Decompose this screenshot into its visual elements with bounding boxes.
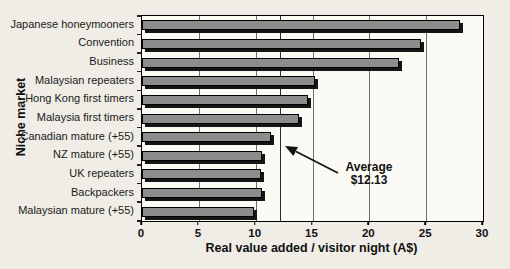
- x-axis-title: Real value added / visitor night (A$): [141, 241, 482, 255]
- category-label: Hong Kong first timers: [0, 90, 134, 109]
- x-tick-label: 10: [248, 227, 261, 239]
- category-label: Backpackers: [0, 183, 134, 202]
- y-tick: [137, 164, 141, 166]
- bar-row: [142, 146, 483, 165]
- bars-layer: [142, 16, 483, 221]
- x-tick-label: 25: [419, 227, 432, 239]
- category-label: UK repeaters: [0, 164, 134, 183]
- average-annotation: Average $12.13: [328, 161, 410, 187]
- bar-row: [142, 202, 483, 221]
- x-tick-label: 15: [305, 227, 318, 239]
- bar: [142, 95, 308, 105]
- x-tick: [311, 221, 313, 225]
- bar: [142, 151, 262, 161]
- y-tick: [137, 90, 141, 92]
- category-axis-labels: Japanese honeymoonersConventionBusinessM…: [0, 15, 134, 220]
- category-label: Malaysia first timers: [0, 108, 134, 127]
- annotation-value: $12.13: [328, 174, 410, 187]
- x-tick: [197, 221, 199, 225]
- y-tick: [137, 183, 141, 185]
- category-label: Japanese honeymooners: [0, 15, 134, 34]
- bar: [142, 132, 271, 142]
- y-tick: [137, 127, 141, 129]
- bar-row: [142, 53, 483, 72]
- bar-row: [142, 35, 483, 54]
- bar-row: [142, 16, 483, 35]
- bar-row: [142, 91, 483, 110]
- y-tick: [137, 108, 141, 110]
- bar: [142, 114, 299, 124]
- x-tick: [481, 221, 483, 225]
- bar-row: [142, 128, 483, 147]
- x-tick: [368, 221, 370, 225]
- y-tick: [137, 145, 141, 147]
- category-label: Canadian mature (+55): [0, 127, 134, 146]
- bar-row: [142, 72, 483, 91]
- category-label: Convention: [0, 34, 134, 53]
- category-label: Malaysian repeaters: [0, 71, 134, 90]
- y-tick: [137, 201, 141, 203]
- category-label: Business: [0, 52, 134, 71]
- y-tick: [137, 52, 141, 54]
- bar-row: [142, 184, 483, 203]
- x-tick: [254, 221, 256, 225]
- x-tick: [424, 221, 426, 225]
- bar: [142, 207, 254, 217]
- bar-row: [142, 165, 483, 184]
- bar: [142, 76, 315, 86]
- bar: [142, 169, 261, 179]
- x-tick-label: 30: [476, 227, 489, 239]
- y-tick: [137, 220, 141, 222]
- category-label: Malaysian mature (+55): [0, 201, 134, 220]
- plot-area: [141, 15, 484, 222]
- y-tick: [137, 34, 141, 36]
- bar: [142, 188, 262, 198]
- scanned-bar-chart-figure: Niche market Japanese honeymoonersConven…: [0, 0, 510, 269]
- x-tick: [140, 221, 142, 225]
- bar: [142, 58, 399, 68]
- category-label: NZ mature (+55): [0, 145, 134, 164]
- bar: [142, 39, 421, 49]
- y-tick: [137, 71, 141, 73]
- x-tick-label: 5: [195, 227, 201, 239]
- y-tick: [137, 15, 141, 17]
- bar-row: [142, 109, 483, 128]
- bar: [142, 20, 460, 30]
- x-tick-label: 20: [362, 227, 375, 239]
- x-tick-label: 0: [138, 227, 144, 239]
